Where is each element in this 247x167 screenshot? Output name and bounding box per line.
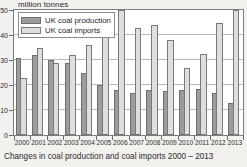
bar-imports	[184, 68, 191, 136]
x-axis-tick	[243, 136, 244, 140]
bar-imports	[102, 25, 109, 135]
bar-group	[161, 10, 177, 135]
y-axis-tick	[9, 85, 13, 86]
x-axis-label: 2010	[178, 139, 193, 146]
bar-imports	[20, 78, 27, 136]
coal-bar-chart: million tonnes 01020304050 2000200120022…	[0, 0, 247, 167]
x-axis-label: 2011	[195, 139, 209, 146]
y-axis-tick	[9, 110, 13, 111]
x-axis-label: 2009	[162, 139, 177, 146]
bar-group	[178, 10, 194, 135]
y-axis-label: 0	[4, 132, 8, 139]
bar-imports	[233, 10, 240, 135]
y-axis-label: 30	[0, 57, 8, 64]
y-axis-tick	[9, 135, 13, 136]
x-axis-label: 2012	[211, 139, 226, 146]
x-axis-label: 2004	[80, 139, 95, 146]
y-axis-label: 20	[0, 82, 8, 89]
legend-item-production: UK coal production	[21, 15, 111, 25]
x-axis-label: 2006	[113, 139, 128, 146]
legend-swatch-imports-icon	[21, 27, 41, 34]
bar-imports	[118, 10, 125, 135]
y-axis-label: 50	[0, 7, 8, 14]
chart-legend: UK coal production UK coal imports	[18, 12, 115, 38]
bar-group	[194, 10, 210, 135]
x-axis-label: 2001	[31, 139, 46, 146]
y-axis-label: 40	[0, 32, 8, 39]
y-axis-label: 10	[0, 107, 8, 114]
x-axis-label: 2008	[146, 139, 161, 146]
bar-imports	[53, 63, 60, 136]
y-axis-unit-label: million tonnes	[18, 0, 68, 9]
legend-item-imports: UK coal imports	[21, 25, 111, 35]
bar-group	[227, 10, 243, 135]
bar-group	[129, 10, 145, 135]
bar-imports	[151, 25, 158, 135]
bar-imports	[135, 28, 142, 136]
chart-caption: Changes in coal production and coal impo…	[4, 152, 213, 161]
legend-swatch-production-icon	[21, 17, 41, 24]
bar-imports	[216, 23, 223, 136]
x-axis-label: 2007	[129, 139, 144, 146]
x-axis-label: 2005	[97, 139, 112, 146]
bar-imports	[200, 54, 207, 135]
y-axis-tick	[9, 10, 13, 11]
legend-label-imports: UK coal imports	[45, 26, 100, 35]
bar-imports	[167, 40, 174, 135]
bar-group	[145, 10, 161, 135]
x-axis-label: 2000	[15, 139, 30, 146]
y-axis-tick	[9, 60, 13, 61]
bar-imports	[37, 48, 44, 136]
bar-group	[210, 10, 226, 135]
bar-imports	[69, 55, 76, 135]
x-axis-label: 2003	[64, 139, 79, 146]
x-axis-label: 2002	[48, 139, 63, 146]
x-axis-label: 2013	[227, 139, 242, 146]
bar-imports	[86, 45, 93, 135]
y-axis-tick	[9, 35, 13, 36]
legend-label-production: UK coal production	[45, 16, 111, 25]
